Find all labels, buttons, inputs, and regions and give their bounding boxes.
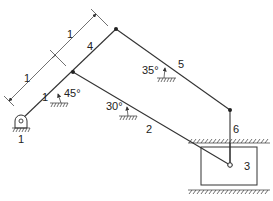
dimension-lines: [4, 9, 108, 106]
ground-label: 1: [18, 133, 24, 145]
bottom-rail: [188, 190, 270, 194]
link-2-label: 2: [146, 123, 152, 135]
link-2: [73, 72, 230, 165]
slider-label: 3: [244, 160, 250, 172]
angle-35-label: 35°: [142, 64, 159, 76]
angle-30-label: 30°: [106, 100, 123, 112]
joint-b: [114, 27, 118, 31]
angle-45-label: 45°: [64, 87, 81, 99]
dim-label-lower: 1: [24, 72, 30, 84]
link-5-label: 5: [178, 58, 184, 70]
link-5: [116, 29, 230, 110]
joint-a: [71, 70, 75, 74]
joint-c: [228, 108, 232, 112]
linkage-diagram: 1 1 1 1 45°: [0, 0, 273, 201]
ground-pivot: [12, 115, 30, 132]
link-1-label: 1: [42, 91, 48, 103]
top-rail: [188, 139, 270, 143]
link-6-label: 6: [233, 123, 239, 135]
link-4-label: 4: [87, 40, 93, 52]
dim-label-upper: 1: [67, 28, 73, 40]
